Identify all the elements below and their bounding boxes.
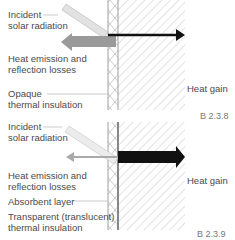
label-heat-gain: Heat gain xyxy=(187,175,228,186)
label-reflection-losses: reflection losses xyxy=(8,64,76,75)
wall-mass xyxy=(118,122,185,230)
label-incident: Incident xyxy=(8,121,41,132)
incident-radiation-band xyxy=(62,4,108,38)
opaque-insulation-layer xyxy=(108,0,118,110)
figure-caption: B 2.3.8 xyxy=(200,111,229,121)
heat-emission-arrow xyxy=(66,152,74,162)
label-heat-emission: Heat emission and xyxy=(8,170,87,181)
label-reflection-losses: reflection losses xyxy=(8,181,76,192)
label-thermal-insulation: thermal insulation xyxy=(8,222,82,233)
label-solar-radiation: solar radiation xyxy=(8,132,68,143)
wall-mass xyxy=(118,0,185,110)
figure-caption: B 2.3.9 xyxy=(197,229,226,239)
label-transparent: Transparent (translucent) xyxy=(8,211,114,222)
label-heat-gain: Heat gain xyxy=(187,83,228,94)
label-absorbent-layer: Absorbent layer xyxy=(8,196,75,207)
label-incident: Incident xyxy=(8,9,41,20)
label-solar-radiation: solar radiation xyxy=(8,20,68,31)
label-opaque: Opaque xyxy=(8,88,42,99)
label-heat-emission: Heat emission and xyxy=(8,53,87,64)
label-thermal-insulation: thermal insulation xyxy=(8,99,82,110)
